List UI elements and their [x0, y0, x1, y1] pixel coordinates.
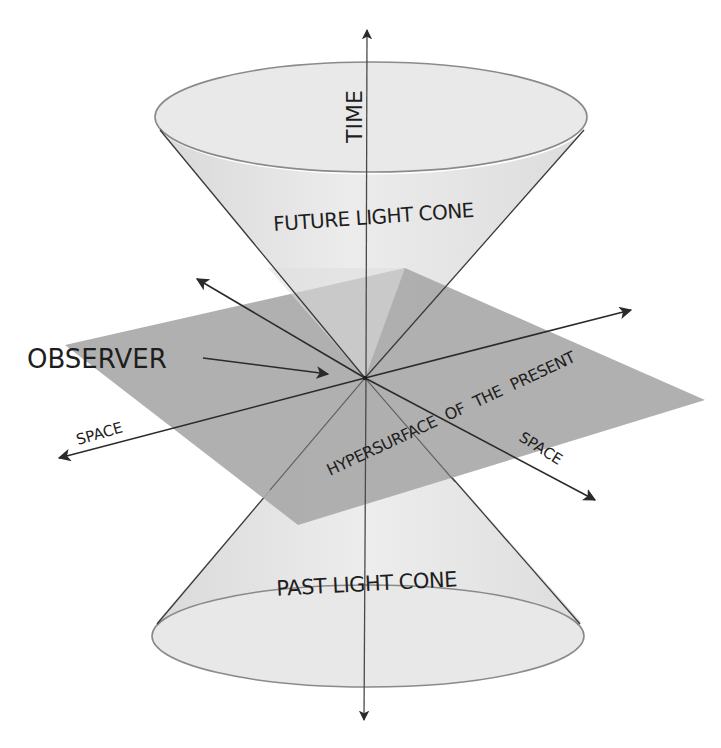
observer-label: OBSERVER — [27, 344, 167, 374]
time-label: TIME — [342, 90, 367, 144]
space-label-left: SPACE — [74, 418, 125, 448]
light-cone-diagram: TIME FUTURE LIGHT CONE PAST LIGHT CONE O… — [0, 0, 721, 748]
past-cone-rim — [152, 585, 584, 687]
observer-point — [363, 376, 367, 380]
future-cone-rim — [155, 62, 587, 172]
